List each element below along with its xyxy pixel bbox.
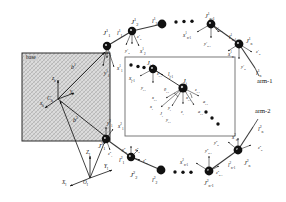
axis-x2-arm1: x12	[140, 49, 146, 54]
axis-y2-arm1: y12	[125, 49, 130, 54]
axis-ZI: ZI	[86, 150, 90, 155]
inset-axis-xj: xj-1	[152, 96, 157, 101]
inset-theta-j: θj	[184, 88, 187, 93]
joint-J2-arm2: J22	[130, 172, 137, 179]
inset-alpha-j1: aj-1	[203, 100, 208, 105]
link-l1-arm2: l21	[119, 157, 124, 163]
axis-z2-arm1: z12	[137, 35, 141, 40]
link-ln-arm2: l2n	[258, 126, 263, 132]
axis-z1-arm1: z11	[107, 51, 111, 56]
arm1-ellipsis	[174, 20, 193, 24]
inset-axis-xjb: xj	[150, 105, 153, 110]
arm2-ellipsis	[173, 170, 192, 174]
inset-axis-zj: zj-1	[195, 88, 200, 93]
axis-y1-arm2: y21	[107, 121, 113, 126]
link-ln1-arm1: l1n-1	[229, 35, 236, 40]
joint-Jn1-arm2: J2n-1	[204, 180, 214, 186]
arm1-tag: arm-1	[257, 78, 273, 85]
axis-z1-arm2: z21	[108, 152, 112, 157]
axis-zn1-arm2: z2n-1	[216, 171, 223, 176]
inset-axis-yj1b: yj-1	[166, 118, 171, 123]
joint-Jn1-arm1: J1n-1	[205, 13, 215, 19]
inset-axis-xj2: xj-1	[186, 96, 191, 101]
inset-axis-yj1: yj-1	[141, 86, 146, 91]
inset-axis-zj1: zj-1	[157, 72, 162, 77]
joint-J1-arm2: J21	[98, 143, 105, 150]
inset-joint-Jj1: Jj-1	[147, 60, 154, 66]
axis-y1-arm1: y11	[104, 71, 110, 76]
base-body	[22, 53, 110, 141]
axis-XI: XI	[62, 180, 66, 185]
joint-J1-arm1: J11	[103, 30, 110, 37]
axis-xb: xb	[40, 101, 44, 106]
inset-theta-j1: θj-1	[164, 88, 169, 93]
axis-zn-arm1: z1n	[256, 50, 260, 55]
link-l1-arm1: l11	[117, 30, 122, 36]
joint-J2-arm1: J12	[131, 19, 138, 26]
axis-xn1-arm1: x1n-1	[183, 33, 191, 38]
link-l2-arm2: l22	[152, 177, 157, 183]
axis-xn-arm1: x1n	[228, 52, 234, 57]
axis-x2-arm2: x22	[135, 148, 140, 153]
axis-YI: YI	[104, 164, 108, 169]
inset-axis-Jj2: Jj	[160, 112, 163, 117]
axis-y2-arm2: y22	[122, 148, 127, 153]
inset-axis-zjb: zj	[181, 110, 183, 115]
arm1-joints	[103, 20, 244, 51]
axis-yn-arm1: y1n	[241, 65, 246, 70]
axis-yn-arm2: y2n	[214, 141, 219, 146]
inset-link-lj1: lj-1	[168, 72, 173, 77]
inset-axis-xj1: xj-1	[129, 76, 135, 81]
vector-b2: b2	[73, 117, 78, 123]
base-tag: base	[24, 55, 38, 61]
link-ln-arm1: l1n	[256, 70, 261, 76]
base-centroid: Cb	[47, 95, 53, 101]
vector-b1: b1	[71, 64, 76, 70]
joint-Jn-arm1: J1n	[246, 38, 252, 44]
arm2-tag: arm-2	[255, 108, 271, 115]
axis-x1-arm1: x11	[117, 66, 123, 71]
inset-joint-Jj: Jj	[183, 78, 187, 84]
axis-x1-arm2: x21	[118, 124, 124, 129]
inset-axis-yj: yj	[168, 106, 171, 111]
axis-xm1-arm2: x2n-1	[180, 160, 188, 165]
axis-yn1-arm2: y2n-1	[205, 149, 212, 154]
joint-Jn-arm2: J2n	[244, 160, 250, 166]
link-l2-arm1: l12	[152, 18, 157, 24]
axis-yb: yb	[70, 89, 74, 94]
inertial-frame	[70, 156, 112, 186]
axis-yn1-arm1: y1n-1	[204, 42, 211, 47]
axis-zn1-arm1: z1n-1	[216, 27, 223, 32]
inset-alpha-j2: aj-1	[198, 110, 203, 115]
axis-z2-arm2: z22	[143, 159, 147, 164]
origin-OI: OI	[83, 180, 88, 185]
link-ln1-arm2: l2n-1	[228, 163, 235, 168]
axis-zn-arm2: z2n	[258, 146, 262, 151]
diagram-canvas: J11z11y11x11l11J12z12y12x12l12J1n-1x1n-1…	[0, 0, 286, 202]
axis-xn-arm2: x2n	[232, 135, 238, 140]
axis-zb: zb	[52, 76, 56, 81]
